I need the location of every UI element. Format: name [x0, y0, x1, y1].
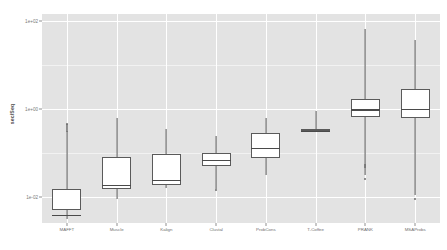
median-line — [351, 109, 380, 110]
box-iqr — [102, 157, 131, 189]
outlier-point — [215, 189, 217, 191]
x-tick-mark — [166, 223, 167, 226]
outlier-point — [66, 123, 68, 125]
whisker-lower — [216, 166, 217, 189]
whisker-upper — [66, 131, 67, 188]
y-tick-mark — [39, 108, 42, 109]
outlier-point — [414, 198, 416, 200]
whisker-lower — [166, 185, 167, 188]
boxplot-kalign — [152, 14, 181, 223]
y-tick-mark — [39, 196, 42, 197]
x-tick-label-t-coffee: T-Coffee — [307, 227, 324, 232]
x-tick-mark — [365, 223, 366, 226]
whisker-upper — [365, 29, 366, 99]
median-line — [202, 160, 231, 161]
x-tick-label-mafft: MAFFT — [60, 227, 75, 232]
x-tick-label-clustal: Clustal — [209, 227, 222, 232]
boxplot-clustal — [202, 14, 231, 223]
whisker-upper — [265, 118, 266, 133]
whisker-lower — [265, 158, 266, 175]
x-tick-label-muscle: Muscle — [110, 227, 124, 232]
x-tick-label-kalign: Kalign — [160, 227, 172, 232]
y-tick-label: 1e+02 — [14, 18, 38, 23]
whisker-upper — [216, 136, 217, 153]
box-iqr — [351, 99, 380, 117]
outlier-point — [364, 166, 366, 168]
x-tick-mark — [116, 223, 117, 226]
whisker-upper — [315, 111, 316, 129]
boxplot-muscle — [102, 14, 131, 223]
boxplot-chart: sec/Seq 1e+021e+001e-02 MAFFTMuscleKalig… — [0, 0, 447, 250]
median-line — [401, 109, 430, 110]
boxplot-msaprobs — [401, 14, 430, 223]
x-tick-mark — [216, 223, 217, 226]
y-axis-tick-labels: 1e+021e+001e-02 — [14, 0, 38, 228]
median-line — [251, 148, 280, 149]
whisker-upper — [166, 129, 167, 154]
outlier-point — [364, 164, 366, 166]
x-axis: MAFFTMuscleKalignClustalProbConsT-Coffee… — [42, 223, 440, 250]
median-line — [52, 215, 81, 216]
x-tick-mark — [66, 223, 67, 226]
boxplot-prank — [351, 14, 380, 223]
x-tick-mark — [415, 223, 416, 226]
boxplot-t-coffee — [301, 14, 330, 223]
outlier-point — [364, 178, 366, 180]
median-line — [301, 131, 330, 132]
whisker-lower — [415, 118, 416, 195]
boxplot-mafft — [52, 14, 81, 223]
plot-panel — [42, 14, 440, 223]
whisker-upper — [116, 118, 117, 157]
x-tick-mark — [315, 223, 316, 226]
outlier-point — [66, 126, 68, 128]
y-tick-label: 1e-02 — [14, 194, 38, 199]
outlier-point — [66, 128, 68, 130]
median-line — [102, 185, 131, 186]
x-tick-label-prank: PRANK — [358, 227, 373, 232]
box-iqr — [52, 189, 81, 210]
outlier-point — [66, 130, 68, 132]
box-iqr — [251, 133, 280, 158]
x-tick-mark — [265, 223, 266, 226]
x-tick-label-msaprobs: MSAProbs — [405, 227, 426, 232]
median-line — [152, 180, 181, 181]
whisker-upper — [415, 40, 416, 89]
x-tick-label-probcons: ProbCons — [256, 227, 276, 232]
y-tick-label: 1e+00 — [14, 106, 38, 111]
y-tick-mark — [39, 20, 42, 21]
box-iqr — [401, 89, 430, 118]
whisker-lower — [116, 189, 117, 199]
boxplot-probcons — [251, 14, 280, 223]
